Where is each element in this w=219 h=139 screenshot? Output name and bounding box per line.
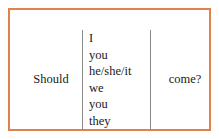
subject-item: you [89,47,108,64]
subject-item: he/she/it [89,63,131,80]
subject-item: we [89,80,104,97]
column-verb: come? [151,20,219,139]
auxiliary-label: Should [33,73,68,86]
verb-label: come? [169,73,202,86]
column-subjects: I you he/she/it we you they [84,20,150,139]
subject-item: you [89,96,108,113]
pattern-table: Should I you he/she/it we you they come? [10,10,209,129]
column-auxiliary: Should [20,20,82,139]
subject-item: they [89,113,111,130]
subject-item: I [89,30,93,47]
grammar-pattern-figure: Should I you he/she/it we you they come? [0,0,219,139]
column-divider-left [82,30,83,130]
